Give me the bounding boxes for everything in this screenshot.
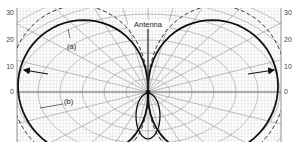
antenna-label: Antenna	[134, 20, 163, 29]
left-tick-0: 0	[10, 88, 14, 95]
curve-label-a: (a)	[67, 42, 77, 51]
antenna-radiation-diagram: Antenna (a) (b) 30 20 10 0 30 20 10 0	[0, 0, 299, 153]
right-tick-10: 10	[284, 63, 292, 70]
left-axis-ticks: 30 20 10 0	[6, 9, 14, 95]
grid-radial-line	[148, 17, 299, 92]
right-tick-30: 30	[284, 9, 292, 16]
right-tick-0: 0	[284, 88, 288, 95]
right-tick-20: 20	[284, 36, 292, 43]
curve-label-b: (b)	[64, 97, 74, 106]
left-tick-30: 30	[6, 9, 14, 16]
grid-radial-line	[148, 0, 299, 92]
left-tick-20: 20	[6, 36, 14, 43]
grid-radial-line	[148, 0, 299, 92]
left-tick-10: 10	[6, 63, 14, 70]
antenna-center	[146, 90, 150, 94]
grid-radial-line	[148, 0, 299, 92]
right-axis-ticks: 30 20 10 0	[284, 9, 292, 95]
